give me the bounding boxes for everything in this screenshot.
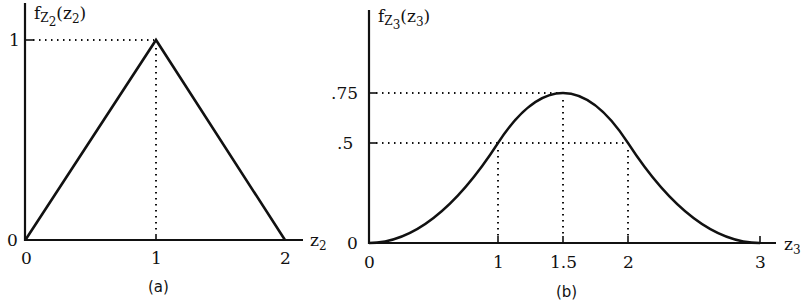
chart-a: fZ2(z2) 1 0 0 1 2 z2 (a) bbox=[7, 3, 327, 296]
x-tick-label-b-3: 3 bbox=[755, 252, 766, 272]
y-tick-label-a-0: 0 bbox=[7, 230, 18, 250]
caption-b: (b) bbox=[556, 283, 577, 301]
x-tick-label-a-2: 2 bbox=[280, 248, 291, 268]
y-label-a: fZ2(z2) bbox=[34, 3, 86, 29]
x-tick-label-a-1: 1 bbox=[151, 248, 162, 268]
x-label-a: z2 bbox=[310, 230, 327, 253]
y-tick-label-b-0: 0 bbox=[347, 233, 358, 253]
x-label-b: z3 bbox=[784, 234, 801, 257]
x-tick-label-b-2: 2 bbox=[623, 252, 634, 272]
x-tick-label-b-1: 1 bbox=[493, 252, 504, 272]
y-tick-label-a-1: 1 bbox=[9, 30, 20, 50]
x-tick-label-b-0: 0 bbox=[364, 252, 375, 272]
y-label-b: fZ3(z3) bbox=[378, 6, 430, 32]
y-tick-label-b-05: .5 bbox=[337, 133, 353, 153]
x-tick-label-b-15: 1.5 bbox=[550, 252, 577, 272]
caption-a: (a) bbox=[148, 278, 169, 296]
series-b-curve bbox=[369, 93, 760, 243]
figure: fZ2(z2) 1 0 0 1 2 z2 (a) fZ3(z3 bbox=[0, 0, 810, 308]
chart-b: fZ3(z3) .75 .5 0 0 1 1.5 2 3 z3 (b) bbox=[331, 6, 801, 301]
x-tick-label-a-0: 0 bbox=[21, 248, 32, 268]
y-tick-label-b-075: .75 bbox=[331, 83, 358, 103]
